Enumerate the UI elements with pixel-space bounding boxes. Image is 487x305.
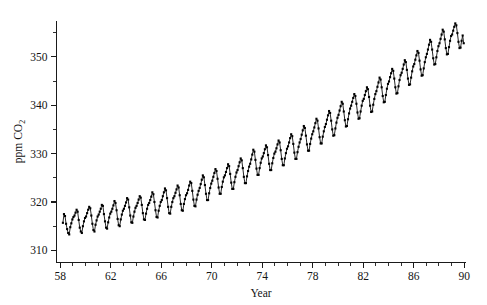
x-axis-title: Year [250,287,271,299]
data-point [174,192,176,194]
data-point [356,111,358,113]
data-point [195,199,197,201]
data-point [96,219,98,221]
data-point [243,176,245,178]
data-point [208,192,210,194]
data-point [154,209,156,211]
data-point [411,70,413,72]
data-point [286,148,288,150]
data-point [384,101,386,103]
data-point [270,169,272,171]
data-point [281,158,283,160]
data-point [125,201,127,203]
data-point [184,198,186,200]
data-point [272,157,274,159]
x-axis-tick-labels: 586266707478828690 [55,270,471,282]
data-point [222,181,224,183]
data-point [249,163,251,165]
data-point [140,197,142,199]
data-point [363,98,365,100]
data-point [382,95,384,97]
data-point [343,110,345,112]
data-point [376,86,378,88]
data-point [305,135,307,137]
data-point [228,165,230,167]
co2-keeling-curve-figure: 586266707478828690 310320330340350 Yearp… [0,0,487,305]
data-point [309,143,311,145]
data-point [161,199,163,201]
data-point [191,190,193,192]
data-point [314,122,316,124]
data-point [77,211,79,213]
data-point [340,105,342,107]
data-point [440,38,442,40]
data-point [414,59,416,61]
data-point [138,199,140,201]
data-point [187,189,189,191]
data-point [70,222,72,224]
data-point [308,150,310,152]
data-point [248,166,250,168]
data-point [443,31,445,33]
data-point [375,90,377,92]
x-tick-label: 66 [156,270,168,282]
data-point [331,128,333,130]
data-point [254,159,256,161]
data-point [364,94,366,96]
data-point [455,24,457,26]
data-point [362,100,364,102]
data-point [163,191,165,193]
data-point [423,67,425,69]
data-point [99,211,101,213]
data-point [192,199,194,201]
data-point [141,204,143,206]
data-point [285,152,287,154]
data-point [202,174,204,176]
y-tick-label: 350 [30,51,48,63]
data-point [355,103,357,105]
data-point [278,139,280,141]
data-point [360,110,362,112]
data-point [367,88,369,90]
data-point [429,39,431,41]
data-point [262,155,264,157]
data-point [175,188,177,190]
data-point [292,143,294,145]
data-point [131,222,133,224]
data-point [313,126,315,128]
data-point [121,214,123,216]
data-point [97,215,99,217]
data-point [424,61,426,63]
data-point [353,93,355,95]
data-point [351,101,353,103]
data-point [380,79,382,81]
data-point [63,213,65,215]
data-point [252,149,254,151]
data-point [232,188,234,190]
data-point [98,214,100,216]
data-point [188,184,190,186]
data-point [74,212,76,214]
data-point [407,78,409,80]
data-point [434,63,436,65]
data-point [116,209,118,211]
data-point [389,76,391,78]
data-point [417,52,419,54]
data-point [258,174,260,176]
data-point [405,61,407,63]
data-point [171,201,173,203]
data-point [412,65,414,67]
data-point [103,213,105,215]
data-point [372,104,374,106]
data-point [365,90,367,92]
data-point [123,208,125,210]
data-point [151,191,153,193]
data-point [436,50,438,52]
data-point [335,122,337,124]
data-point [409,83,411,85]
data-point [212,176,214,178]
data-point [104,220,106,222]
data-point [64,215,66,217]
data-point [259,167,261,169]
data-point [293,152,295,154]
